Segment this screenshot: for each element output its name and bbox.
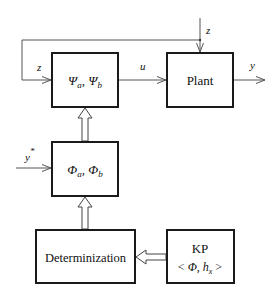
plant-label: Plant xyxy=(187,73,214,88)
kp-label: KP xyxy=(192,241,209,256)
hollow-arrow-estimator-to-controller xyxy=(78,108,92,141)
signal-y: y xyxy=(249,59,255,71)
signal-z-feedback: z xyxy=(36,61,42,73)
signal-u: u xyxy=(140,60,146,72)
hollow-arrow-kp-to-determinization xyxy=(136,250,166,264)
control-diagram: Ψa, Ψb Plant Φa, Φb Determinization KP <… xyxy=(0,0,278,300)
controller-label: Ψa, Ψb xyxy=(68,73,102,90)
estimator-label: Φa, Φb xyxy=(67,162,103,179)
kp-parameters: < Φ, hx > xyxy=(178,260,222,276)
kp-block xyxy=(167,230,234,283)
signal-y-star: y* xyxy=(24,146,35,163)
signal-z-top: z xyxy=(205,24,211,36)
determinization-label: Determinization xyxy=(45,251,127,265)
hollow-arrow-determinization-to-estimator xyxy=(78,197,92,229)
